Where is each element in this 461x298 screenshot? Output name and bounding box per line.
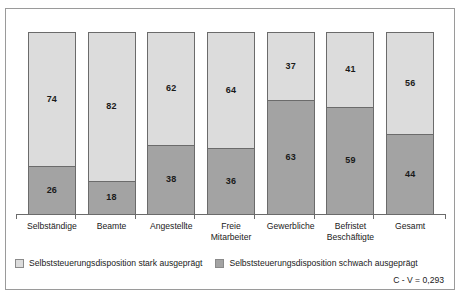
category-label: Gewerbliche bbox=[258, 221, 324, 232]
bar-value-label: 64 bbox=[226, 86, 236, 95]
bar-segment-strong: 82 bbox=[89, 33, 135, 181]
bar-value-label: 18 bbox=[106, 193, 116, 202]
axis-tick bbox=[254, 215, 255, 219]
x-axis-line bbox=[16, 214, 446, 215]
stacked-bar[interactable]: 3763 bbox=[267, 32, 315, 215]
bar-value-label: 26 bbox=[47, 186, 57, 195]
category-label-line: Mitarbeiter bbox=[198, 232, 264, 243]
bar-group: 8218 bbox=[88, 32, 136, 215]
legend-label-weak: Selbststeuerungsdisposition schwach ausg… bbox=[229, 258, 417, 268]
stacked-bar[interactable]: 6238 bbox=[147, 32, 195, 215]
category-label-line: Beamte bbox=[79, 221, 145, 232]
category-label-line: Selbständige bbox=[19, 221, 85, 232]
bar-segment-weak: 26 bbox=[29, 166, 75, 214]
legend-label-strong: Selbststeuerungsdisposition stark ausgep… bbox=[29, 258, 202, 268]
plot-area: 7426821862386436376341595644 bbox=[22, 17, 440, 215]
category-label-line: Gewerbliche bbox=[258, 221, 324, 232]
bar-segment-weak: 63 bbox=[268, 100, 314, 214]
category-label: Gesamt bbox=[377, 221, 443, 232]
bar-segment-strong: 41 bbox=[327, 33, 373, 107]
bar-segment-weak: 59 bbox=[327, 107, 373, 214]
bar-value-label: 62 bbox=[166, 84, 176, 93]
category-label: Selbständige bbox=[19, 221, 85, 232]
bar-value-label: 36 bbox=[226, 177, 236, 186]
bar-value-label: 59 bbox=[345, 156, 355, 165]
stacked-bar[interactable]: 7426 bbox=[28, 32, 76, 215]
bar-value-label: 41 bbox=[345, 65, 355, 74]
bar-group: 6436 bbox=[207, 32, 255, 215]
category-label-line: Gesamt bbox=[377, 221, 443, 232]
bar-value-label: 38 bbox=[166, 175, 176, 184]
bar-segment-weak: 44 bbox=[387, 134, 433, 214]
footnote-cramers-v: C - V = 0,293 bbox=[393, 275, 444, 285]
bar-value-label: 74 bbox=[47, 95, 57, 104]
category-label: Beamte bbox=[79, 221, 145, 232]
stacked-bar[interactable]: 8218 bbox=[88, 32, 136, 215]
bar-value-label: 63 bbox=[285, 153, 295, 162]
category-label-line: Beschäftigte bbox=[317, 232, 383, 243]
bar-value-label: 82 bbox=[106, 102, 116, 111]
axis-tick bbox=[194, 215, 195, 219]
bar-value-label: 44 bbox=[405, 170, 415, 179]
bar-group: 7426 bbox=[28, 32, 76, 215]
category-label-line: Angestellte bbox=[138, 221, 204, 232]
bar-group: 4159 bbox=[326, 32, 374, 215]
chart-legend: Selbststeuerungsdisposition stark ausgep… bbox=[15, 253, 445, 273]
category-label: BefristetBeschäftigte bbox=[317, 221, 383, 243]
axis-tick bbox=[373, 215, 374, 219]
category-label-line: Freie bbox=[198, 221, 264, 232]
legend-item-weak: Selbststeuerungsdisposition schwach ausg… bbox=[215, 258, 417, 268]
bar-segment-strong: 64 bbox=[208, 33, 254, 148]
axis-tick bbox=[135, 215, 136, 219]
chart-frame: 7426821862386436376341595644 Selbständig… bbox=[5, 8, 455, 290]
bar-value-label: 37 bbox=[285, 62, 295, 71]
bar-group: 3763 bbox=[267, 32, 315, 215]
bar-segment-strong: 56 bbox=[387, 33, 433, 134]
axis-tick bbox=[75, 215, 76, 219]
category-label-line: Befristet bbox=[317, 221, 383, 232]
stacked-bar[interactable]: 6436 bbox=[207, 32, 255, 215]
bar-segment-strong: 37 bbox=[268, 33, 314, 100]
bar-segment-weak: 18 bbox=[89, 181, 135, 214]
axis-tick bbox=[445, 215, 446, 219]
stacked-bar[interactable]: 5644 bbox=[386, 32, 434, 215]
bar-segment-strong: 62 bbox=[148, 33, 194, 145]
axis-tick bbox=[16, 215, 17, 219]
category-label: Angestellte bbox=[138, 221, 204, 232]
category-axis-labels: SelbständigeBeamteAngestellteFreieMitarb… bbox=[22, 221, 440, 253]
stacked-bar[interactable]: 4159 bbox=[326, 32, 374, 215]
axis-tick bbox=[314, 215, 315, 219]
bar-value-label: 56 bbox=[405, 79, 415, 88]
category-label: FreieMitarbeiter bbox=[198, 221, 264, 243]
legend-swatch-weak-icon bbox=[215, 259, 224, 268]
legend-item-strong: Selbststeuerungsdisposition stark ausgep… bbox=[15, 258, 202, 268]
bar-group: 5644 bbox=[386, 32, 434, 215]
bar-segment-weak: 36 bbox=[208, 148, 254, 214]
legend-swatch-strong-icon bbox=[15, 259, 24, 268]
bar-group: 6238 bbox=[147, 32, 195, 215]
bar-segment-strong: 74 bbox=[29, 33, 75, 166]
bar-segment-weak: 38 bbox=[148, 145, 194, 214]
